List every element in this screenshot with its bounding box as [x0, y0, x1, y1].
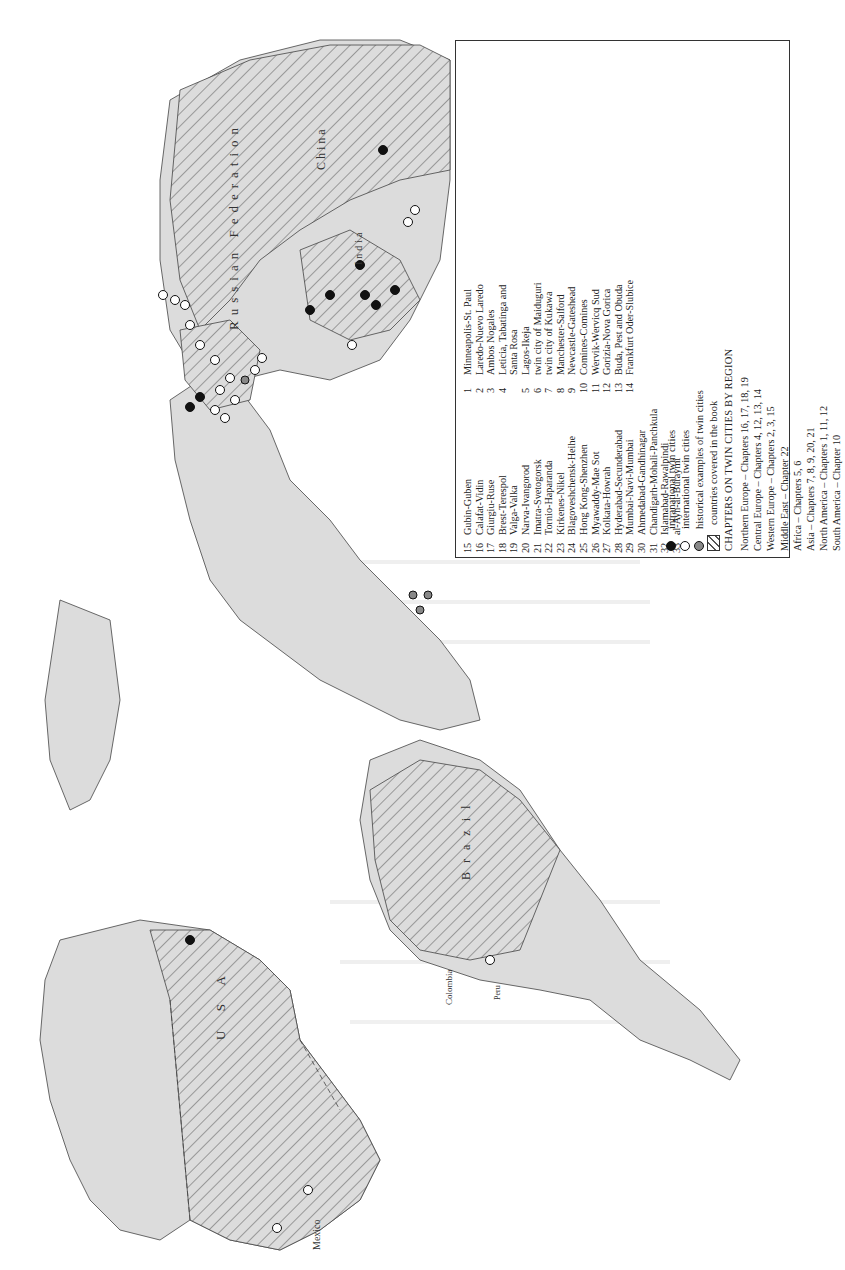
- numbered-city-item: 31Chandigarh-Mohali-Panchkula: [648, 409, 660, 553]
- label-usa: U S A: [213, 968, 228, 1040]
- numbered-city-item: 6twin city of Maiduguri: [532, 280, 544, 393]
- symbol-international: international twin cities: [678, 251, 692, 551]
- city-pair-name: Chandigarh-Mohali-Panchkula: [648, 409, 659, 535]
- city-number: 2: [474, 375, 486, 393]
- city-number: 4: [497, 375, 509, 393]
- symbol-intranational: intranational twin cities: [664, 251, 678, 551]
- label-india: India: [353, 229, 364, 265]
- label-russia: Russian Federation: [226, 122, 241, 330]
- chapter-region: Western Europe – Chapters 2, 3, 15: [765, 251, 778, 551]
- city-number: 25: [578, 535, 590, 553]
- city-pair-name: Laredo-Nuevo Laredo: [474, 284, 485, 375]
- numbered-city-item: 1Minneapolis-St. Paul: [462, 280, 474, 393]
- chapter-region: Asia – Chapters 7, 8, 9, 20, 21: [805, 251, 818, 551]
- numbered-city-item: 8Manchester-Salford: [555, 280, 567, 393]
- city-pair-name: Valga-Valka: [508, 485, 519, 535]
- numbered-city-item: 7twin city of Kukawa: [543, 280, 555, 393]
- city-pair-name: Comines-Comines: [578, 299, 589, 375]
- hatch-pattern-icon: [707, 535, 720, 551]
- numbered-city-item: 3Ambos Nogales: [485, 280, 497, 393]
- city-number: 29: [624, 535, 636, 553]
- city-pair-name: Brest-Terespol: [497, 475, 508, 535]
- numbered-city-item: 26Myawaddy-Mae Sot: [590, 409, 602, 553]
- label-china: China: [314, 126, 328, 170]
- city-pair-name: Wervik-Wervicq Sud: [590, 289, 601, 375]
- city-pair-name: Narva-Ivangorod: [520, 465, 531, 535]
- city-number: 12: [601, 375, 613, 393]
- numbered-city-item: 4Leticia, Tabatinga and: [497, 280, 509, 393]
- south-america: [360, 740, 740, 1080]
- city-pair-name: Gubin-Guben: [462, 479, 473, 535]
- city-number: 21: [532, 535, 544, 553]
- chapter-region: Africa – Chapters 5, 6: [792, 251, 805, 551]
- grey-dot-icon: [694, 541, 704, 551]
- chapter-region: Northern Europe – Chapters 16, 17, 18, 1…: [739, 251, 752, 551]
- symbol-historical: historical examples of twin cities: [692, 251, 706, 551]
- numbered-city-item: 10Comines-Comines: [578, 280, 590, 393]
- numbered-city-item: 29Mumbai-Navi-Mumbai: [624, 409, 636, 553]
- numbered-city-item: 28Hyderabad-Secunderabad: [613, 409, 625, 553]
- numbered-city-item: 2Laredo-Nuevo Laredo: [474, 280, 486, 393]
- city-number: 20: [520, 535, 532, 553]
- city-pair-name: Hyderabad-Secunderabad: [613, 430, 624, 535]
- city-number: 31: [648, 535, 660, 553]
- city-pair-name: Mumbai-Navi-Mumbai: [624, 439, 635, 535]
- numbered-city-item: 9Newcastle-Gateshead: [566, 280, 578, 393]
- label-brazil: B r a z i l: [459, 803, 473, 880]
- city-pair-name: Ambos Nogales: [485, 310, 496, 375]
- numbered-city-item: 19Valga-Valka: [508, 409, 520, 553]
- city-pair-name: Kirkenes-Nikel: [555, 472, 566, 535]
- label-colombia: Colombia: [444, 969, 454, 1005]
- city-pair-name: Tornio-Haparanda: [543, 460, 554, 535]
- city-pair-name: Myawaddy-Mae Sot: [590, 452, 601, 535]
- numbered-city-item: 15Gubin-Guben: [462, 409, 474, 553]
- numbered-city-item: 11Wervik-Wervicq Sud: [590, 280, 602, 393]
- numbered-city-item: 25Hong Kong-Shenzhen: [578, 409, 590, 553]
- chapter-region: North America – Chapters 1, 11, 12: [818, 251, 831, 551]
- numbered-city-item: 16Calafat-Vidin: [474, 409, 486, 553]
- city-number: 6: [532, 375, 544, 393]
- label-peru: Peru: [493, 985, 502, 1000]
- city-number: 16: [474, 535, 486, 553]
- city-number: 22: [543, 535, 555, 553]
- city-pair-name: twin city of Maiduguri: [532, 282, 543, 375]
- city-number: 13: [613, 375, 625, 393]
- city-number: 27: [601, 535, 613, 553]
- numbered-city-list: 1Minneapolis-St. Paul2Laredo-Nuevo Lared…: [462, 47, 662, 553]
- label-mexico: Mexico: [311, 1219, 322, 1250]
- chapter-region: South America – Chapter 10: [831, 251, 844, 551]
- city-pair-name: Giurgiu-Ruse: [485, 480, 496, 535]
- city-number: 11: [590, 375, 602, 393]
- city-number: 10: [578, 375, 590, 393]
- white-dot-icon: [680, 541, 690, 551]
- city-pair-name: twin city of Kukawa: [543, 292, 554, 375]
- city-pair-name: Lagos-Ikeja: [520, 326, 531, 375]
- black-dot-icon: [666, 541, 676, 551]
- city-pair-name: Frankfurt Oder-Slubice: [624, 280, 635, 375]
- city-number: 23: [555, 535, 567, 553]
- map-legend: 1Minneapolis-St. Paul2Laredo-Nuevo Lared…: [455, 40, 790, 558]
- city-number: 26: [590, 535, 602, 553]
- numbered-city-item: 17Giurgiu-Ruse: [485, 409, 497, 553]
- city-number: 9: [566, 375, 578, 393]
- city-pair-name: Imatra-Svetogorsk: [532, 459, 543, 535]
- chapter-region: Middle East – Chapter 22: [779, 251, 792, 551]
- city-pair-name: Blagoveshchensk-Heihe: [566, 436, 577, 535]
- numbered-city-item: 12Gorizia-Nova Gorica: [601, 280, 613, 393]
- numbered-city-item: 21Imatra-Svetogorsk: [532, 409, 544, 553]
- city-number: 7: [543, 375, 555, 393]
- chapters-title: CHAPTERS ON TWIN CITIES BY REGION: [723, 251, 734, 551]
- city-pair-name: Leticia, Tabatinga and: [497, 285, 508, 375]
- city-number: 30: [636, 535, 648, 553]
- city-number: 15: [462, 535, 474, 553]
- numbered-city-item: 22Tornio-Haparanda: [543, 409, 555, 553]
- city-number: 18: [497, 535, 509, 553]
- numbered-city-item: 5Lagos-Ikeja: [520, 280, 532, 393]
- numbered-city-item: 18Brest-Terespol: [497, 409, 509, 553]
- city-number: 24: [566, 535, 578, 553]
- city-pair-name: Newcastle-Gateshead: [566, 287, 577, 375]
- city-number: 19: [508, 535, 520, 553]
- numbered-city-item: 27Kolkata-Howrah: [601, 409, 613, 553]
- north-america: [40, 920, 380, 1250]
- city-number: 3: [485, 375, 497, 393]
